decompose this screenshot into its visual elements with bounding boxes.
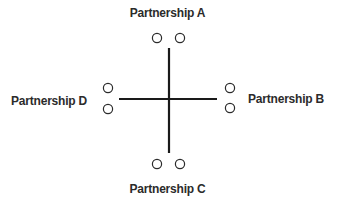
seat-circle-icon	[152, 159, 161, 168]
seat-circle-icon	[103, 104, 112, 113]
label-partnership-b: Partnership B	[248, 92, 324, 106]
seats-partnership-b	[225, 83, 234, 112]
seats-partnership-d	[103, 83, 112, 113]
partnership-diagram: Partnership A Partnership B Partnership …	[0, 0, 339, 207]
seat-circle-icon	[225, 83, 234, 92]
seat-circle-icon	[225, 103, 234, 112]
label-partnership-d: Partnership D	[11, 94, 87, 108]
seat-circle-icon	[175, 159, 184, 168]
seats-partnership-c	[152, 159, 184, 168]
label-partnership-a: Partnership A	[0, 6, 337, 20]
seat-circle-icon	[152, 33, 161, 42]
seats-partnership-a	[152, 33, 184, 42]
label-partnership-c: Partnership C	[0, 182, 337, 196]
seat-circle-icon	[175, 33, 184, 42]
seat-circle-icon	[103, 83, 112, 92]
